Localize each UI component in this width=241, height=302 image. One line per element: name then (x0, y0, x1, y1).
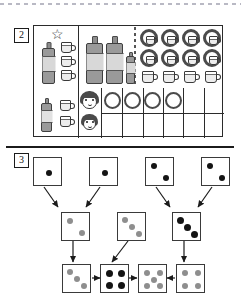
die-bottom-2[interactable] (100, 264, 129, 293)
cup-icon (184, 71, 196, 83)
large-bottle-icon (86, 36, 103, 84)
middle-solid-separator (6, 146, 234, 148)
pip (67, 218, 73, 224)
drink-cup-table: ☆ (33, 25, 223, 137)
pip (79, 230, 85, 236)
pip (195, 270, 201, 276)
pip (81, 283, 87, 289)
cup-icon (61, 56, 72, 67)
pip (118, 270, 125, 277)
pip (144, 270, 150, 276)
pip (118, 282, 125, 289)
die-middle-3[interactable] (172, 212, 201, 241)
children-column (78, 88, 102, 138)
pip (67, 269, 73, 275)
pip (46, 170, 52, 176)
grid-circle-mark[interactable] (144, 92, 161, 109)
pip (157, 270, 163, 276)
boy-face-icon (80, 91, 99, 110)
top-dotted-separator (0, 3, 241, 5)
pip (207, 163, 213, 169)
bottle-icon (42, 42, 55, 84)
grid-vertical-line (183, 88, 184, 138)
grid-circle-mark[interactable] (124, 92, 141, 109)
pip (106, 282, 113, 289)
girl-face-icon (81, 114, 98, 131)
grid-vertical-line (204, 88, 205, 138)
pip (74, 276, 80, 282)
cup-icon (60, 100, 71, 111)
die-top-4[interactable] (201, 157, 230, 186)
arrow-top1-to-mid1 (44, 187, 58, 207)
pip (163, 175, 169, 181)
pip (129, 224, 135, 230)
exercise-number-2: 2 (14, 28, 29, 43)
die-top-1[interactable] (33, 157, 62, 186)
die-bottom-1[interactable] (62, 264, 91, 293)
pip (182, 283, 188, 289)
ringed-cup-icon (182, 49, 200, 67)
arrow-top2-to-mid1 (86, 187, 100, 207)
pip (182, 270, 188, 276)
pip (122, 217, 128, 223)
die-top-3[interactable] (145, 157, 174, 186)
pip (177, 217, 184, 224)
pip (136, 231, 142, 237)
grid-vertical-line (143, 88, 144, 138)
large-bottle-icon (106, 36, 123, 84)
worksheet-page: 2 ☆ (0, 0, 241, 302)
pip (144, 283, 150, 289)
ringed-cup-icon (140, 49, 158, 67)
arrow-top4-to-mid3 (198, 187, 212, 207)
arrow-top3-to-mid3 (156, 187, 170, 207)
die-middle-2[interactable] (117, 212, 146, 241)
legend-column-top: ☆ (34, 26, 78, 88)
die-bottom-4[interactable] (176, 264, 205, 293)
ringed-cup-icon (182, 29, 200, 47)
legend-column-bottom (34, 88, 78, 138)
ringed-cup-icon (140, 29, 158, 47)
answer-grid (102, 88, 224, 138)
bottles-group (80, 26, 134, 88)
die-top-2[interactable] (89, 157, 118, 186)
cup-icon (61, 42, 72, 53)
small-bottle-icon (126, 52, 135, 84)
ringed-cup-icon (161, 49, 179, 67)
pip (102, 170, 108, 176)
grid-circle-mark[interactable] (165, 92, 182, 109)
pip (151, 277, 157, 283)
pip (106, 270, 113, 277)
arrow-mid2-to-bot2 (112, 241, 128, 262)
ringed-cup-icon (203, 49, 221, 67)
ringed-cup-icon (203, 29, 221, 47)
bottle-icon (41, 98, 52, 132)
cup-icon (60, 116, 71, 127)
pip (191, 231, 198, 238)
pip (219, 175, 225, 181)
cup-icon (205, 71, 217, 83)
cup-icon (61, 70, 72, 81)
ringed-cup-icon (161, 29, 179, 47)
pip (157, 283, 163, 289)
cups-grid (138, 26, 224, 88)
grid-vertical-line (163, 88, 164, 138)
pip (195, 283, 201, 289)
grid-vertical-line (122, 88, 123, 138)
die-middle-1[interactable] (61, 212, 90, 241)
grid-circle-mark[interactable] (104, 92, 121, 109)
dice-flow-diagram (0, 150, 241, 302)
cup-icon (163, 71, 175, 83)
die-bottom-3[interactable] (138, 264, 167, 293)
pip (184, 224, 191, 231)
star-icon: ☆ (51, 28, 64, 41)
cup-icon (142, 71, 154, 83)
pip (151, 163, 157, 169)
